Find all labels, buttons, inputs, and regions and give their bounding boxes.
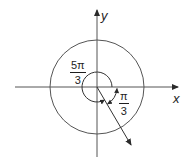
pi-over-three-label: π 3 <box>119 91 129 117</box>
pi-denominator: 3 <box>121 104 127 117</box>
five-pi-over-three-label: 5π 3 <box>70 60 86 86</box>
x-axis-label: x <box>173 92 180 105</box>
y-axis-label: y <box>101 9 108 22</box>
five-pi-numerator: 5π <box>70 60 86 72</box>
angle-diagram <box>0 0 190 163</box>
five-pi-denominator: 3 <box>75 73 81 86</box>
pi-over-three-arc <box>108 89 118 105</box>
pi-numerator: π <box>119 91 129 103</box>
